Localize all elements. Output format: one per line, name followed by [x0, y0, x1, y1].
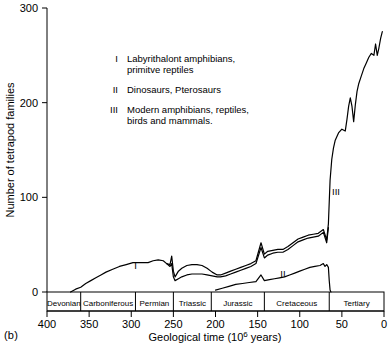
- x-tick-label: 200: [206, 318, 224, 330]
- x-tick-label: 300: [122, 318, 140, 330]
- series-line: [167, 228, 329, 281]
- period-label-devonian: Devonian: [47, 299, 81, 308]
- data-series-group: [71, 32, 383, 292]
- period-label-triassic: Triassic: [179, 299, 206, 308]
- chart-annotation-labels: IIIIII: [134, 186, 340, 278]
- y-tick-label: 200: [20, 97, 38, 109]
- period-label-jurassic: Jurassic: [223, 299, 252, 308]
- annotation-i: I: [134, 260, 137, 271]
- period-label-carboniferous: Carboniferous: [83, 299, 133, 308]
- x-tick-label: 400: [38, 318, 56, 330]
- chart-canvas: 0100200300 Number of tetrapod families D…: [0, 0, 392, 348]
- annotation-iii: III: [332, 186, 340, 197]
- legend-marker-i: I: [115, 53, 118, 64]
- chart-legend: ILabyrithalont amphibians,primitve repti…: [110, 53, 249, 126]
- x-tick-label: 50: [336, 318, 348, 330]
- x-tick-label: 100: [291, 318, 309, 330]
- x-axis-ticks: [47, 311, 384, 317]
- x-axis-tick-labels: 400350300250200150100500: [38, 318, 387, 330]
- y-axis-title: Number of tetrapod families: [4, 82, 16, 218]
- legend-marker-ii: II: [113, 84, 118, 95]
- panel-label: (b): [4, 329, 18, 341]
- y-axis-ticks: [42, 8, 47, 292]
- y-tick-label: 100: [20, 191, 38, 203]
- period-label-permian: Permian: [140, 299, 170, 308]
- legend-label-ii: Dinosaurs, Pterosaurs: [127, 84, 221, 95]
- y-axis-tick-labels: 0100200300: [20, 2, 38, 298]
- x-tick-label: 0: [381, 318, 387, 330]
- period-label-tertiary: Tertiary: [344, 299, 370, 308]
- legend-label-i: primitve reptiles: [127, 64, 194, 75]
- y-tick-label: 0: [32, 286, 38, 298]
- x-tick-label: 250: [164, 318, 182, 330]
- series-line: [216, 264, 331, 292]
- geological-period-labels: DevonianCarboniferousPermianTriassicJura…: [47, 299, 370, 308]
- y-tick-label: 300: [20, 2, 38, 14]
- series-line: [71, 32, 383, 292]
- figure-panel: 0100200300 Number of tetrapod families D…: [0, 0, 392, 348]
- legend-marker-iii: III: [110, 104, 118, 115]
- x-tick-label: 350: [80, 318, 98, 330]
- legend-label-iii: birds and mammals.: [127, 115, 213, 126]
- x-axis-title-before: Geological time (10: [149, 331, 244, 343]
- annotation-ii: II: [280, 268, 285, 279]
- legend-label-iii: Modern amphibians, reptiles,: [127, 104, 249, 115]
- legend-label-i: Labyrithalont amphibians,: [127, 53, 235, 64]
- x-axis-title-after: years): [248, 331, 282, 343]
- period-label-cretaceous: Cretaceous: [276, 299, 317, 308]
- x-tick-label: 150: [248, 318, 266, 330]
- x-axis-title: Geological time (106 years): [149, 330, 282, 343]
